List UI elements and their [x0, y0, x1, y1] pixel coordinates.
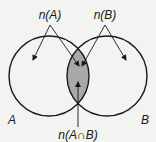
- label-set-b: B: [141, 113, 149, 127]
- label-n-intersection: n(A∩B): [58, 128, 97, 142]
- arrow-n-a-to-a: [33, 25, 50, 60]
- arrow-n-b-to-intersection: [82, 25, 105, 66]
- arrow-n-b-to-b: [105, 25, 126, 60]
- label-n-b: n(B): [94, 8, 117, 22]
- label-set-a: A: [7, 113, 16, 127]
- label-n-a: n(A): [39, 8, 62, 22]
- venn-diagram: n(A) n(B) A B n(A∩B): [0, 0, 156, 142]
